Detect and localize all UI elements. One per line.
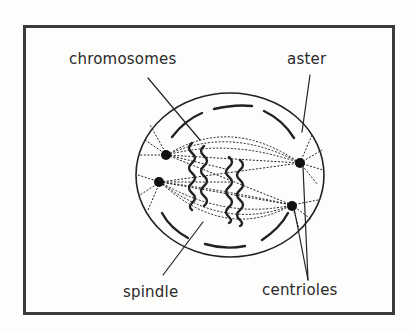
cell-diagram (0, 0, 415, 333)
leader-aster (302, 75, 310, 132)
label-chromosomes: chromosomes (69, 50, 176, 68)
centriole-right-top (295, 158, 305, 168)
chromosomes (189, 143, 243, 226)
centriole-left-bottom (154, 177, 164, 187)
label-aster: aster (287, 50, 326, 68)
centriole-right-bottom (287, 201, 297, 211)
cell-membrane (136, 93, 324, 257)
leader-centriole-1 (303, 167, 308, 280)
leader-chromosomes (148, 78, 200, 140)
label-spindle: spindle (123, 283, 178, 301)
centriole-left-top (161, 150, 171, 160)
label-centrioles: centrioles (262, 281, 338, 299)
leader-spindle (163, 222, 203, 275)
